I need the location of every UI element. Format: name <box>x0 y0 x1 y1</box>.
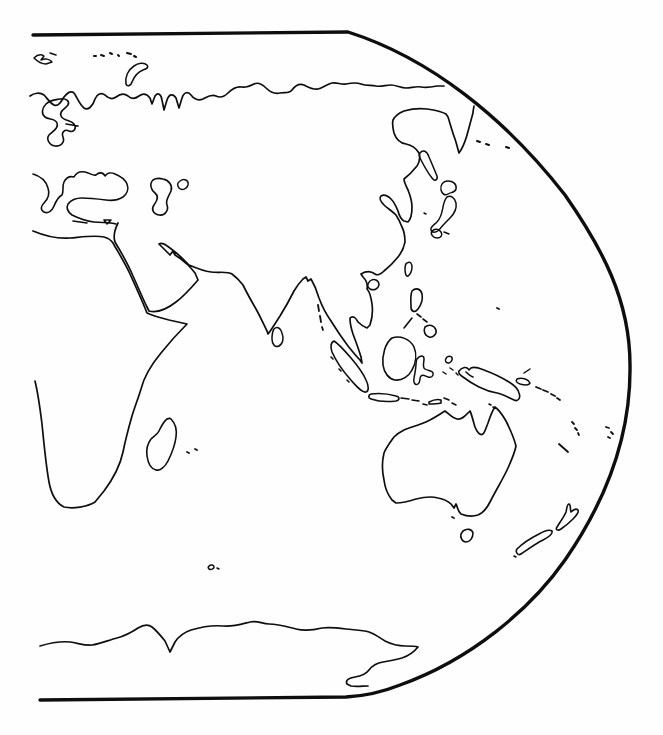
lake-caspian-sea <box>151 178 172 215</box>
islands-andaman-nicobar <box>318 305 323 330</box>
island-tasmania <box>461 529 473 542</box>
islands-svalbard <box>34 53 56 64</box>
islands-arafura-dashes <box>444 398 456 405</box>
island-new-guinea <box>459 367 520 400</box>
islands-mauritius-reunion-dots <box>187 449 197 453</box>
islands-vanuatu-dots <box>572 422 579 435</box>
islands-new-zealand <box>514 504 578 557</box>
island-hainan <box>368 280 379 290</box>
island-hokkaido <box>441 181 456 195</box>
island-palau-dot <box>497 308 499 309</box>
map-page <box>0 0 663 735</box>
islands-kuril-aleutian-dots <box>477 141 509 148</box>
island-madagascar <box>147 418 177 470</box>
lake-aral-sea <box>178 180 189 190</box>
islands-solomon-chain <box>536 387 560 400</box>
coastline-siberia-arctic <box>30 83 444 110</box>
island-honshu-japan <box>424 196 456 238</box>
islands-java-lesser-sunda-timor <box>369 394 441 405</box>
island-novaya-zemlya <box>126 63 148 86</box>
island-sakhalin <box>419 151 437 180</box>
coastline-black-sea-aegean <box>33 172 128 224</box>
island-borneo <box>383 337 416 380</box>
map-frame-border <box>33 32 630 700</box>
coastline-antarctica <box>40 621 418 686</box>
island-sri-lanka <box>272 328 283 347</box>
island-new-caledonia <box>559 444 568 452</box>
coastline-scandinavia-baltic <box>42 99 78 146</box>
islands-philippines <box>404 289 436 337</box>
islands-franz-josef-dots <box>94 53 136 57</box>
island-sulawesi <box>414 356 433 385</box>
coastline-australia <box>383 407 517 518</box>
island-kerguelen <box>208 565 219 569</box>
islands-bismarck-new-britain <box>516 369 530 385</box>
islands-moluccas-halmahera <box>443 356 458 375</box>
islands-fiji-dots <box>606 427 613 438</box>
coastline-asia-south-arabia-india-china <box>114 106 474 363</box>
islands-torres-strait-dots <box>489 404 495 408</box>
world-map-canvas <box>0 0 663 735</box>
island-taiwan <box>405 262 412 276</box>
